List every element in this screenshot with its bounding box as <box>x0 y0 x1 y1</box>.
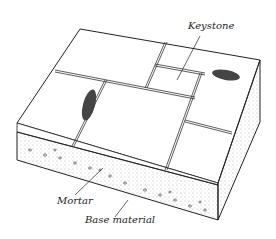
base-material-label: Base material <box>85 214 155 225</box>
paving-diagram: Keystone Mortar Base material <box>0 0 276 239</box>
keystone-label: Keystone <box>188 20 234 31</box>
paving-illustration <box>0 0 276 239</box>
mortar-label: Mortar <box>57 195 93 206</box>
